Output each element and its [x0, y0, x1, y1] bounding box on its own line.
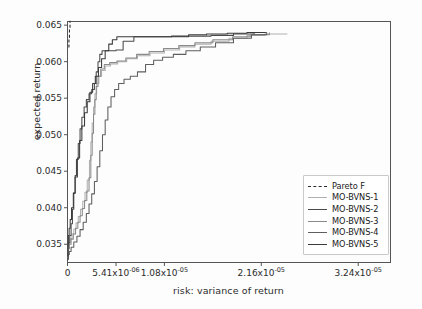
- legend-item[interactable]: MO-BVNS-2: [307, 203, 384, 215]
- legend-line-icon: [307, 216, 328, 226]
- legend-line-icon: [307, 181, 328, 191]
- legend-item-label: MO-BVNS-2: [332, 204, 378, 214]
- legend-line-icon: [307, 192, 328, 202]
- chart-legend: Pareto FMO-BVNS-1MO-BVNS-2MO-BVNS-3MO-BV…: [303, 175, 389, 255]
- legend-line-icon: [307, 239, 328, 249]
- legend-item[interactable]: MO-BVNS-3: [307, 215, 384, 227]
- x-axis-label: risk: variance of return: [67, 285, 390, 296]
- x-tick-label: 3.24x10-05: [313, 268, 403, 278]
- x-axis-tick-labels: 05.41x10-061.08x10-052.16x10-053.24x10-0…: [0, 268, 422, 284]
- legend-item[interactable]: Pareto F: [307, 180, 384, 192]
- legend-line-icon: [307, 204, 328, 214]
- series-line: [68, 32, 265, 255]
- legend-item[interactable]: MO-BVNS-4: [307, 226, 384, 238]
- x-tick-label: 2.16x10-05: [216, 268, 306, 278]
- legend-item-label: MO-BVNS-3: [332, 216, 378, 226]
- x-tick-label: 1.08x10-05: [119, 268, 209, 278]
- series-line: [68, 32, 267, 258]
- legend-item-label: MO-BVNS-5: [332, 239, 378, 249]
- legend-line-icon: [307, 227, 328, 237]
- legend-item-label: MO-BVNS-1: [332, 192, 378, 202]
- data-curves: [68, 21, 288, 260]
- legend-item[interactable]: MO-BVNS-1: [307, 192, 384, 204]
- plot-area: [0, 0, 422, 309]
- legend-item[interactable]: MO-BVNS-5: [307, 238, 384, 250]
- chart-figure: expected return 0.0350.0400.0450.0500.05…: [0, 0, 422, 309]
- series-line: [68, 21, 70, 47]
- legend-item-label: Pareto F: [332, 181, 365, 191]
- legend-item-label: MO-BVNS-4: [332, 227, 378, 237]
